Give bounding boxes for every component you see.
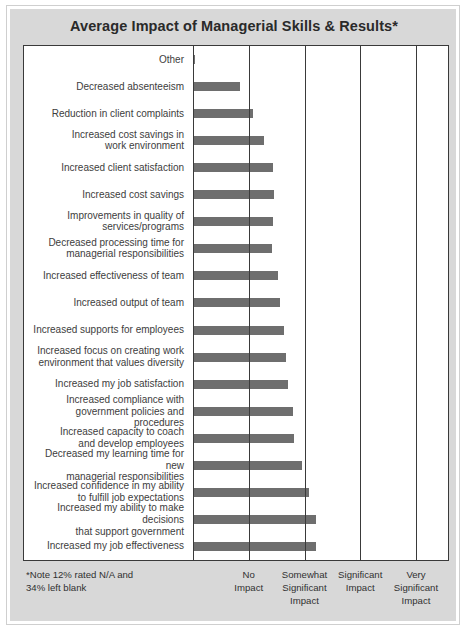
bar-row-label: Increased focus on creating workenvironm… xyxy=(24,346,189,369)
bar-row: Reduction in client complaints xyxy=(24,100,448,127)
bar-row: Increased compliance withgovernment poli… xyxy=(24,398,448,425)
bar-row-label: Increased capacity to coachand develop e… xyxy=(24,427,189,450)
bar xyxy=(193,515,316,524)
bar-row: Increased cost savings inwork environmen… xyxy=(24,127,448,154)
plot-area: OtherDecreased absenteeismReduction in c… xyxy=(23,45,449,561)
bar xyxy=(193,190,274,199)
bar xyxy=(193,163,273,172)
axis-tick-label-4: VerySignificantImpact xyxy=(373,568,459,607)
bar-row-label: Increased client satisfaction xyxy=(24,162,189,174)
bar-row: Increased client satisfaction xyxy=(24,154,448,181)
bar-row-label: Increased my ability to make decisionsth… xyxy=(24,502,189,537)
bar xyxy=(193,326,284,335)
chart-footer: *Note 12% rated N/A and34% left blank No… xyxy=(23,566,455,624)
bar-row: Increased supports for employees xyxy=(24,317,448,344)
chart-title: Average Impact of Managerial Skills & Re… xyxy=(17,18,451,34)
bar-row-label: Decreased absenteeism xyxy=(24,81,189,93)
bar-row: Increased my job effectiveness xyxy=(24,533,448,560)
bar-row-label: Increased compliance withgovernment poli… xyxy=(24,394,189,429)
bar xyxy=(193,542,316,551)
bar-row-label: Increased supports for employees xyxy=(24,324,189,336)
bar-row: Decreased absenteeism xyxy=(24,73,448,100)
bar xyxy=(193,244,272,253)
bar xyxy=(193,82,240,91)
bar-rows: OtherDecreased absenteeismReduction in c… xyxy=(24,46,448,560)
bar xyxy=(193,136,264,145)
bar-row-label: Decreased processing time formanagerial … xyxy=(24,237,189,260)
chart-footnote: *Note 12% rated N/A and34% left blank xyxy=(26,568,186,594)
bar-row: Increased my ability to make decisionsth… xyxy=(24,506,448,533)
bar xyxy=(193,271,278,280)
bar-row: Increased effectiveness of team xyxy=(24,262,448,289)
bar-row-label: Increased output of team xyxy=(24,297,189,309)
bar-row-label: Increased cost savings inwork environmen… xyxy=(24,129,189,152)
bar xyxy=(193,298,280,307)
bar-row-label: Increased my job satisfaction xyxy=(24,378,189,390)
bar xyxy=(193,380,288,389)
bar xyxy=(193,461,302,470)
bar-row: Other xyxy=(24,46,448,73)
bar-row-label: Increased my job effectiveness xyxy=(24,541,189,553)
bar-row-label: Reduction in client complaints xyxy=(24,108,189,120)
bar-row: Decreased processing time formanagerial … xyxy=(24,235,448,262)
bar-row: Increased focus on creating workenvironm… xyxy=(24,344,448,371)
bar-row-label: Increased confidence in my abilityto ful… xyxy=(24,481,189,504)
bar xyxy=(193,407,293,416)
chart-card: Average Impact of Managerial Skills & Re… xyxy=(6,5,460,625)
bar-row-label: Increased cost savings xyxy=(24,189,189,201)
bar xyxy=(193,109,253,118)
bar-row: Decreased my learning time for newmanage… xyxy=(24,452,448,479)
bar-row-label: Decreased my learning time for newmanage… xyxy=(24,448,189,483)
bar-row-label: Increased effectiveness of team xyxy=(24,270,189,282)
bar-row-label: Improvements in quality ofservices/progr… xyxy=(24,210,189,233)
bar xyxy=(193,55,195,64)
bar-row-label: Other xyxy=(24,54,189,66)
bar xyxy=(193,434,294,443)
bar xyxy=(193,488,309,497)
bar xyxy=(193,217,273,226)
bar-row: Improvements in quality ofservices/progr… xyxy=(24,208,448,235)
bar xyxy=(193,353,286,362)
bar-row: Increased cost savings xyxy=(24,181,448,208)
bar-row: Increased output of team xyxy=(24,289,448,316)
chart-page: Average Impact of Managerial Skills & Re… xyxy=(0,0,466,631)
